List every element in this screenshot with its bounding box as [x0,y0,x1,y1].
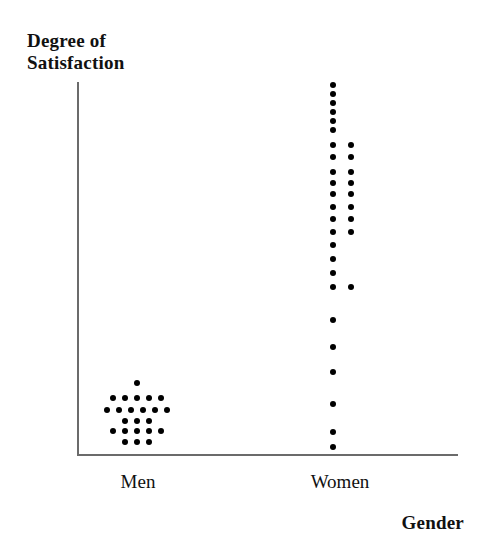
data-point-women [330,127,336,133]
data-point-women [330,444,336,450]
data-point-women [330,154,336,160]
data-point-women [330,100,336,106]
data-point-men [128,407,134,413]
data-point-women [330,317,336,323]
data-point-women [348,169,354,175]
data-point-women [330,429,336,435]
data-point-women [330,344,336,350]
data-point-women [348,180,354,186]
data-point-women [330,82,336,88]
data-point-men [158,428,164,434]
data-point-men [134,395,140,401]
x-tick-label-men: Men [98,471,178,493]
data-point-women [348,154,354,160]
data-point-men [116,407,122,413]
data-point-men [146,418,152,424]
data-point-women [330,142,336,148]
data-point-women [348,191,354,197]
data-point-men [122,395,128,401]
data-point-men [110,428,116,434]
data-point-women [330,256,336,262]
x-tick-label-women: Women [290,471,390,493]
data-point-men [152,407,158,413]
data-point-women [348,142,354,148]
data-point-women [330,169,336,175]
data-point-men [134,418,140,424]
data-point-men [134,428,140,434]
data-point-women [348,229,354,235]
dot-plot-figure: Degree of Satisfaction Men Women Gender [0,0,488,557]
data-point-women [348,204,354,210]
data-point-women [330,180,336,186]
data-point-women [330,204,336,210]
data-point-men [146,439,152,445]
plot-area [0,0,488,557]
data-point-men [134,380,140,386]
data-point-women [330,401,336,407]
data-point-men [122,418,128,424]
data-point-men [104,407,110,413]
data-point-women [330,229,336,235]
data-point-women [330,109,336,115]
data-point-men [134,439,140,445]
data-point-men [122,439,128,445]
data-point-women [330,191,336,197]
data-point-women [330,91,336,97]
data-point-women [330,369,336,375]
data-point-women [348,284,354,290]
x-axis-title: Gender [402,512,464,534]
data-point-women [348,216,354,222]
data-point-men [164,407,170,413]
data-point-men [122,428,128,434]
data-point-women [330,242,336,248]
data-point-women [330,216,336,222]
data-point-women [330,284,336,290]
data-point-women [330,118,336,124]
data-point-men [140,407,146,413]
data-point-men [158,395,164,401]
data-point-women [330,270,336,276]
data-point-men [146,395,152,401]
data-point-men [110,395,116,401]
data-point-men [146,428,152,434]
